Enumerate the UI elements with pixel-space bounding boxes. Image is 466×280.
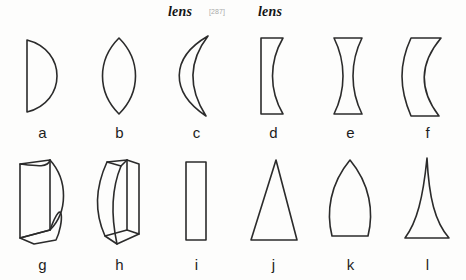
triangular-prism-icon [235,150,312,254]
negative-meniscus-lens-icon [389,26,466,122]
figure-cell-i: i [158,150,235,280]
crescent-meniscus-lens-icon [158,26,235,122]
biconvex-lens-icon [81,26,158,122]
figure-cell-h: h [81,150,158,280]
figure-label-l: l [389,256,466,273]
figure-cell-b: b [81,26,158,148]
figure-label-b: b [81,124,158,141]
headword-left: lens [168,4,192,20]
figure-cell-a: a [4,26,81,148]
figure-cell-g: g [4,150,81,280]
figure-label-a: a [4,124,81,141]
figure-cell-d: d [235,26,312,148]
figure-label-g: g [4,256,81,273]
figure-label-h: h [81,256,158,273]
figure-label-k: k [312,256,389,273]
plano-concave-lens-icon [235,26,312,122]
headword-right: lens [258,4,282,20]
figure-label-c: c [158,124,235,141]
rectangular-plate-icon [158,150,235,254]
figure-cell-f: f [389,26,466,148]
figure-label-i: i [158,256,235,273]
plano-convex-lens-icon [4,26,81,122]
figure-cell-c: c [158,26,235,148]
ogive-pointed-lens-icon [312,150,389,254]
figure-cell-l: l [389,150,466,280]
entry-marker: [287] [209,8,225,15]
figure-row-1: a b c d [0,26,466,148]
convex-cylindrical-lens-3d-icon [4,150,81,254]
figure-cell-j: j [235,150,312,280]
lens-figure-plate: lens [287] lens a b [0,0,466,280]
concave-sided-prism-icon [389,150,466,254]
figure-label-f: f [389,124,466,141]
biconcave-lens-icon [312,26,389,122]
figure-label-d: d [235,124,312,141]
figure-cell-e: e [312,26,389,148]
concave-cylindrical-lens-3d-icon [81,150,158,254]
figure-row-2: g h i [0,150,466,280]
figure-cell-k: k [312,150,389,280]
figure-label-e: e [312,124,389,141]
page-header: lens [287] lens [0,0,466,26]
figure-label-j: j [235,256,312,273]
